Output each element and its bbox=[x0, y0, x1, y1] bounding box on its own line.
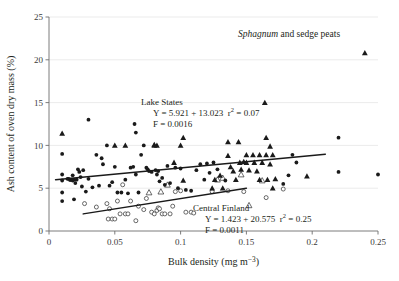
data-point bbox=[113, 165, 117, 169]
data-point bbox=[158, 179, 162, 183]
data-point bbox=[155, 173, 159, 177]
data-point bbox=[184, 210, 188, 214]
data-point bbox=[168, 181, 172, 185]
chart-title-italic-word: Sphagnum bbox=[238, 29, 278, 39]
chart-figure: 051015202500.050.10.150.20.25 Ash conten… bbox=[0, 0, 399, 281]
data-point bbox=[263, 152, 269, 157]
data-point bbox=[105, 202, 109, 206]
data-point bbox=[194, 168, 198, 172]
data-point bbox=[176, 186, 180, 190]
data-point bbox=[94, 153, 98, 157]
data-point bbox=[134, 219, 138, 223]
data-point bbox=[71, 173, 75, 177]
data-point bbox=[238, 172, 244, 177]
lake-f: 0.0016 bbox=[168, 119, 193, 129]
data-point bbox=[158, 207, 162, 211]
data-point bbox=[129, 199, 133, 203]
data-point bbox=[94, 205, 98, 209]
data-point bbox=[113, 217, 117, 221]
lake-slope: 13.023 bbox=[199, 108, 224, 118]
data-point bbox=[287, 173, 291, 177]
data-point bbox=[60, 152, 64, 156]
x-tick-label: 0.1 bbox=[175, 237, 186, 247]
data-point bbox=[60, 173, 64, 177]
data-point bbox=[216, 167, 220, 171]
data-point bbox=[244, 152, 250, 157]
annotation-central-finland-equation: Y = 1.423 + 20.575 r2 = 0.25 bbox=[193, 214, 311, 225]
data-point bbox=[133, 122, 137, 126]
data-point bbox=[105, 144, 109, 148]
lake-intercept: 5.921 bbox=[169, 108, 189, 118]
data-point bbox=[101, 162, 105, 166]
data-point bbox=[257, 152, 263, 157]
annotation-lake-states: Lake States Y = 5.921 + 13.023 r2 = 0.07… bbox=[141, 97, 259, 130]
data-point bbox=[108, 184, 112, 188]
data-point bbox=[119, 191, 123, 195]
data-point bbox=[118, 212, 122, 216]
data-point bbox=[238, 166, 244, 171]
data-point bbox=[376, 173, 380, 177]
y-tick-label: 0 bbox=[39, 226, 44, 236]
data-point bbox=[142, 208, 146, 212]
data-point bbox=[270, 152, 276, 157]
data-point bbox=[254, 168, 260, 173]
data-point bbox=[265, 177, 271, 182]
data-point bbox=[59, 131, 65, 136]
x-tick-label: 0 bbox=[47, 237, 52, 247]
data-point bbox=[84, 190, 88, 194]
data-point bbox=[180, 178, 186, 183]
data-point bbox=[134, 173, 138, 177]
data-point bbox=[77, 170, 81, 174]
data-point bbox=[263, 135, 269, 140]
data-point bbox=[291, 153, 295, 157]
data-point bbox=[123, 178, 127, 182]
data-point bbox=[106, 217, 110, 221]
x-tick-label: 0.25 bbox=[370, 237, 386, 247]
y-tick-label: 10 bbox=[34, 141, 44, 151]
data-point bbox=[91, 185, 95, 189]
data-point bbox=[272, 176, 278, 181]
data-point bbox=[60, 191, 64, 195]
data-point bbox=[236, 139, 242, 144]
data-point bbox=[246, 167, 252, 172]
data-point bbox=[87, 118, 91, 122]
data-point bbox=[144, 196, 148, 200]
finland-slope: 20.575 bbox=[251, 214, 276, 224]
data-point bbox=[81, 168, 85, 172]
data-point bbox=[171, 204, 175, 208]
finland-intercept: 1.423 bbox=[221, 214, 241, 224]
data-point bbox=[281, 182, 285, 186]
data-point bbox=[137, 191, 141, 195]
y-tick-label: 5 bbox=[39, 183, 44, 193]
data-point bbox=[121, 183, 125, 187]
data-point bbox=[110, 180, 114, 184]
chart-title-rest: and sedge peats bbox=[278, 29, 340, 39]
data-point bbox=[225, 139, 231, 144]
data-point bbox=[184, 188, 188, 192]
data-point bbox=[72, 197, 76, 201]
data-point bbox=[116, 191, 120, 195]
regression-line-lake-states bbox=[56, 154, 326, 180]
y-tick-label: 15 bbox=[34, 98, 44, 108]
x-tick-label: 0.2 bbox=[307, 237, 318, 247]
data-point bbox=[73, 181, 77, 185]
chart-title-note: Sphagnum and sedge peats bbox=[238, 29, 340, 41]
finland-r2: 0.25 bbox=[296, 214, 312, 224]
data-point bbox=[115, 199, 119, 203]
data-point bbox=[264, 196, 268, 200]
annotation-lake-states-label: Lake States bbox=[141, 97, 259, 108]
data-point bbox=[126, 191, 130, 195]
annotation-central-finland: Central Finland Y = 1.423 + 20.575 r2 = … bbox=[193, 203, 311, 236]
y-axis-title: Ash content of oven dry mass (%) bbox=[5, 56, 17, 193]
y-tick-label: 25 bbox=[34, 12, 44, 22]
data-point bbox=[225, 153, 231, 158]
data-point bbox=[146, 190, 152, 195]
data-point bbox=[152, 212, 156, 216]
data-point bbox=[100, 156, 104, 160]
finland-f: 0.0011 bbox=[220, 225, 244, 235]
lake-r2: 0.07 bbox=[244, 108, 260, 118]
x-tick-label: 0.05 bbox=[107, 237, 123, 247]
annotation-central-finland-f: F = 0.0011 bbox=[193, 225, 311, 236]
data-point bbox=[212, 161, 216, 165]
data-point bbox=[233, 177, 239, 182]
